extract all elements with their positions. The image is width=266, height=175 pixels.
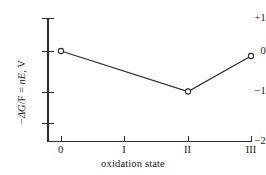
- data-point-marker: [248, 53, 253, 58]
- series-line: [61, 51, 251, 92]
- data-point-marker: [58, 48, 63, 53]
- data-series-layer: [0, 0, 266, 175]
- frost-diagram-figure: −ΔG/F = nE, V +1 0 −1 −2 0 I II III oxid…: [0, 0, 266, 175]
- data-point-marker: [185, 89, 190, 94]
